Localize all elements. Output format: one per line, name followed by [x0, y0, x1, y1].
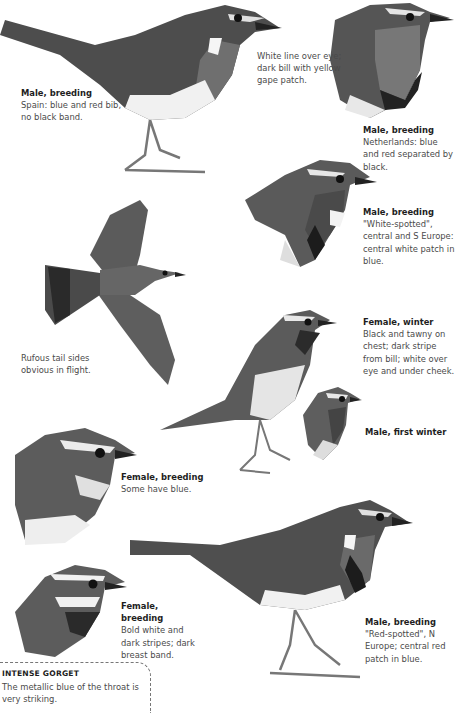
caption-female-breeding-blue: Female, breeding Some have blue.	[121, 471, 216, 495]
caption-title: Male, first winter	[365, 426, 456, 438]
caption-title: Male, breeding	[363, 124, 456, 136]
caption-male-netherlands: Male, breeding Netherlands: blue and red…	[363, 124, 456, 173]
caption-male-red-spotted: Male, breeding "Red-spotted", N Europe; …	[365, 616, 456, 665]
caption-desc: Rufous tail sides obvious in flight.	[21, 353, 91, 375]
caption-title: Female, breeding	[121, 600, 201, 624]
caption-male-spain: Male, breeding Spain: blue and red bib, …	[21, 87, 131, 124]
bird-male-white-spotted-illustration	[245, 155, 380, 270]
caption-desc: Some have blue.	[121, 484, 191, 494]
caption-flight-note: Rufous tail sides obvious in flight.	[21, 352, 111, 376]
caption-female-breeding-bold: Female, breeding Bold white and dark str…	[121, 600, 201, 661]
caption-title: Female, breeding	[121, 471, 216, 483]
caption-desc: Black and tawny on chest; dark stripe fr…	[363, 329, 454, 376]
gorget-title: INTENSE GORGET	[2, 669, 79, 678]
bird-female-breeding-bold-illustration	[15, 562, 130, 662]
caption-title: Male, breeding	[365, 616, 456, 628]
bird-male-netherlands-illustration	[330, 0, 456, 120]
gorget-callout: INTENSE GORGET The metallic blue of the …	[0, 662, 151, 713]
caption-desc: Spain: blue and red bib, no black band.	[21, 100, 121, 122]
caption-eye-note: White line over eye; dark bill with yell…	[257, 50, 345, 87]
caption-male-white-spotted: Male, breeding "White-spotted", central …	[363, 206, 456, 267]
caption-desc: Netherlands: blue and red separated by b…	[363, 137, 453, 171]
caption-desc: Bold white and dark stripes; dark breast…	[121, 625, 195, 659]
bird-male-first-winter-illustration	[298, 385, 363, 465]
gorget-desc: The metallic blue of the throat is very …	[2, 681, 148, 705]
caption-female-winter: Female, winter Black and tawny on chest;…	[363, 316, 456, 377]
caption-desc: "Red-spotted", N Europe; central red pat…	[365, 629, 446, 663]
caption-desc: White line over eye; dark bill with yell…	[257, 51, 341, 85]
caption-male-first-winter: Male, first winter	[365, 426, 456, 438]
caption-title: Male, breeding	[363, 206, 456, 218]
caption-desc: "White-spotted", central and S Europe: c…	[363, 219, 454, 266]
caption-title: Female, winter	[363, 316, 456, 328]
caption-title: Male, breeding	[21, 87, 131, 99]
